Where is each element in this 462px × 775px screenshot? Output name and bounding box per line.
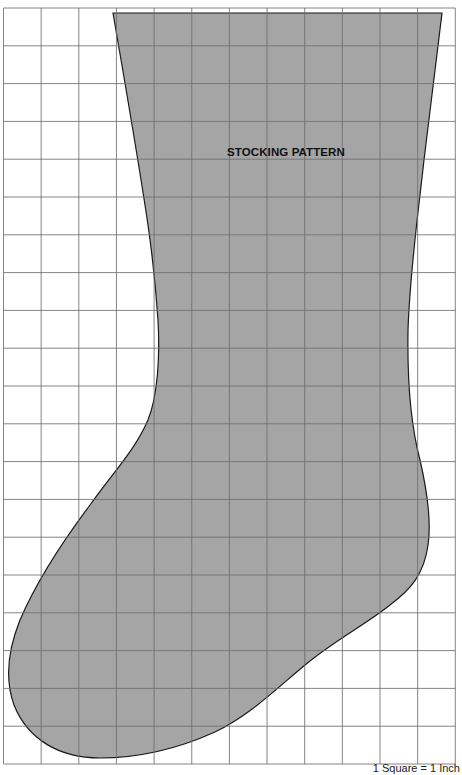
grid-lines (4, 8, 456, 764)
scale-note: 1 Square = 1 Inch (373, 762, 460, 774)
stocking-pattern-diagram (0, 0, 462, 775)
pattern-title: STOCKING PATTERN (206, 146, 366, 158)
